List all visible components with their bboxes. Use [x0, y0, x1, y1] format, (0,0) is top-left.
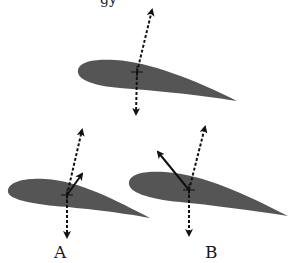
airfoil-a: A	[8, 130, 150, 262]
airfoil-diagram: gy A B	[0, 0, 293, 263]
airfoil-b: B	[129, 127, 288, 262]
airfoil-top	[78, 10, 237, 114]
lift-arrow-up	[137, 10, 152, 72]
label-b: B	[205, 242, 218, 262]
weight-arrow-down	[136, 72, 137, 114]
top-text-fragment: gy	[100, 0, 117, 7]
label-a: A	[53, 242, 67, 262]
